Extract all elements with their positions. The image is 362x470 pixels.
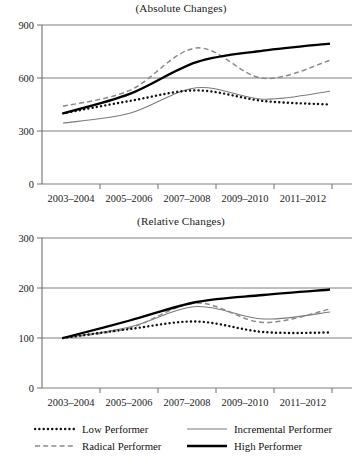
y-ticks-relative: [37, 238, 42, 388]
series-group-absolute: [63, 44, 330, 124]
x-tick-2011-2012: 2011–2012: [280, 397, 326, 408]
legend-label-radical-performer: Radical Performer: [82, 440, 161, 452]
y-tick-300: 300: [18, 233, 34, 244]
x-ticks-relative: [100, 388, 332, 393]
panel-absolute-changes: (Absolute Changes): [0, 0, 362, 212]
x-tick-labels-absolute: 2003–2004 2005–2006 2007–2008 2009–2010 …: [48, 193, 327, 204]
plot-area-absolute: 900 600 300 0 2003–2004 2005–2006 2007–2…: [0, 0, 362, 212]
y-tick-900: 900: [18, 20, 34, 31]
legend-label-high-performer: High Performer: [234, 440, 302, 452]
y-tick-200: 200: [18, 283, 34, 294]
x-tick-labels-relative: 2003–2004 2005–2006 2007–2008 2009–2010 …: [48, 397, 327, 408]
legend-swatch-thick-solid-icon: [186, 441, 228, 451]
gridlines-relative: [42, 238, 352, 388]
svg-absolute: 900 600 300 0 2003–2004 2005–2006 2007–2…: [0, 0, 362, 212]
y-tick-labels-absolute: 900 600 300 0: [18, 20, 34, 190]
chart-legend: Low Performer Incremental Performer Radi…: [0, 420, 362, 466]
legend-item-low-performer: Low Performer: [34, 423, 186, 435]
y-tick-600: 600: [18, 73, 34, 84]
x-tick-2003-2004: 2003–2004: [48, 193, 96, 204]
y-tick-labels-relative: 300 200 100 0: [18, 233, 34, 394]
y-tick-0: 0: [29, 179, 34, 190]
svg-relative: 300 200 100 0 2003–2004 2005–2006 2007–2…: [0, 213, 362, 418]
legend-item-incremental-performer: Incremental Performer: [186, 423, 354, 435]
x-tick-2003-2004: 2003–2004: [48, 397, 96, 408]
legend-label-incremental-performer: Incremental Performer: [234, 423, 332, 435]
figure-two-panel-line-charts: (Absolute Changes): [0, 0, 362, 470]
legend-swatch-dashed-icon: [34, 441, 76, 451]
legend-item-radical-performer: Radical Performer: [34, 440, 186, 452]
legend-swatch-dotted-icon: [34, 424, 76, 434]
x-tick-2009-2010: 2009–2010: [222, 397, 269, 408]
legend-swatch-thin-solid-icon: [186, 424, 228, 434]
series-line-incremental-performer: [63, 87, 330, 123]
y-tick-100: 100: [18, 333, 34, 344]
series-line-low-performer: [63, 321, 330, 338]
legend-label-low-performer: Low Performer: [82, 423, 148, 435]
x-tick-2005-2006: 2005–2006: [106, 193, 153, 204]
legend-item-high-performer: High Performer: [186, 440, 354, 452]
y-tick-0: 0: [29, 383, 34, 394]
series-group-relative: [63, 290, 330, 339]
panel-relative-changes: (Relative Changes): [0, 213, 362, 418]
series-line-high-performer: [63, 290, 330, 339]
y-tick-300: 300: [18, 126, 34, 137]
x-tick-2011-2012: 2011–2012: [280, 193, 326, 204]
x-tick-2009-2010: 2009–2010: [222, 193, 269, 204]
y-ticks-absolute: [37, 25, 42, 184]
x-tick-2005-2006: 2005–2006: [106, 397, 153, 408]
x-ticks-absolute: [100, 184, 332, 189]
x-tick-2007-2008: 2007–2008: [164, 397, 211, 408]
x-tick-2007-2008: 2007–2008: [164, 193, 211, 204]
plot-area-relative: 300 200 100 0 2003–2004 2005–2006 2007–2…: [0, 213, 362, 418]
